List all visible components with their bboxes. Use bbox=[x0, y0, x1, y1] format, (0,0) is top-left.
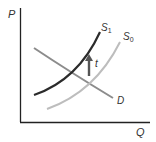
supply-curve-s0-label: S0 bbox=[123, 31, 134, 43]
supply-curve-s0 bbox=[47, 42, 120, 109]
y-axis-label: P bbox=[8, 8, 16, 20]
x-axis-label: Q bbox=[136, 126, 145, 138]
tax-label: t bbox=[95, 58, 99, 69]
demand-curve-label: D bbox=[117, 95, 124, 106]
supply-curve-s1-label: S1 bbox=[101, 22, 112, 34]
supply-demand-diagram: P Q D S0 S1 t bbox=[0, 0, 156, 142]
